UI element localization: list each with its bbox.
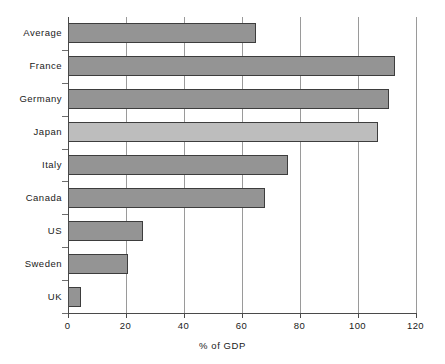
category-label-canada: Canada [4, 192, 62, 203]
category-label-italy: Italy [4, 159, 62, 170]
x-tick-20 [126, 313, 127, 318]
plot-area [68, 17, 416, 313]
x-tick-40 [184, 313, 185, 318]
x-tick-100 [358, 313, 359, 318]
bar-row [68, 56, 416, 76]
y-tick-7 [62, 280, 68, 281]
category-label-germany: Germany [4, 93, 62, 104]
x-tick-80 [300, 313, 301, 318]
bar-canada [68, 188, 265, 208]
x-tick-label-100: 100 [338, 320, 378, 331]
bar-sweden [68, 254, 129, 274]
category-label-france: France [4, 60, 62, 71]
x-axis-title: % of GDP [0, 340, 445, 351]
x-tick-label-80: 80 [280, 320, 320, 331]
gridline-120 [416, 17, 417, 313]
category-label-us: US [4, 225, 62, 236]
y-tick-2 [62, 116, 68, 117]
bar-average [68, 23, 257, 43]
y-tick-5 [62, 214, 68, 215]
x-tick-label-40: 40 [164, 320, 204, 331]
bar-row [68, 254, 416, 274]
bar-germany [68, 89, 390, 109]
y-tick-3 [62, 149, 68, 150]
bar-row [68, 89, 416, 109]
bar-japan [68, 122, 378, 142]
x-tick-120 [416, 313, 417, 318]
x-tick-label-20: 20 [106, 320, 146, 331]
bar-series [68, 17, 416, 313]
x-tick-label-60: 60 [222, 320, 262, 331]
bar-uk [68, 287, 81, 307]
category-label-sweden: Sweden [4, 258, 62, 269]
y-tick-4 [62, 181, 68, 182]
bar-row [68, 221, 416, 241]
bar-row [68, 287, 416, 307]
bar-chart: AverageFranceGermanyJapanItalyCanadaUSSw… [0, 0, 445, 364]
x-tick-label-0: 0 [48, 320, 88, 331]
category-label-uk: UK [4, 291, 62, 302]
x-tick-0 [68, 313, 69, 318]
y-tick-6 [62, 247, 68, 248]
x-tick-60 [242, 313, 243, 318]
bar-row [68, 122, 416, 142]
bar-france [68, 56, 396, 76]
bar-row [68, 155, 416, 175]
y-tick-0 [62, 50, 68, 51]
y-axis-line [68, 17, 69, 314]
category-label-japan: Japan [4, 126, 62, 137]
bar-us [68, 221, 143, 241]
bar-row [68, 23, 416, 43]
category-label-average: Average [4, 27, 62, 38]
bar-row [68, 188, 416, 208]
y-tick-1 [62, 83, 68, 84]
x-tick-label-120: 120 [396, 320, 436, 331]
bar-italy [68, 155, 288, 175]
